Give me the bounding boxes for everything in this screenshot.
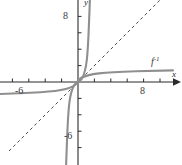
x-tick-label-8: 8 [140,86,145,96]
x-axis [0,78,181,86]
x-tick-label-neg6: -6 [15,86,23,96]
y-tick-label-neg6: -6 [64,131,72,141]
y-tick-label-8: 8 [63,11,68,21]
curve-label-f-inverse: f-1 [151,57,160,67]
graph-canvas [0,0,182,165]
curve-label-f-exponent: -1 [154,55,160,63]
y-axis-label: y [84,0,88,7]
function-inverse-graph-figure: -6 8 8 -6 x y f-1 [0,0,182,165]
x-axis-label: x [172,70,176,79]
